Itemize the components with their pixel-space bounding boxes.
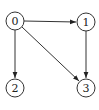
node-label: 2 (12, 82, 19, 95)
node-0: 0 (6, 12, 24, 30)
graph-canvas: 0 1 2 3 (0, 0, 99, 110)
node-1: 1 (77, 13, 95, 31)
node-label: 1 (83, 16, 90, 29)
edge-0-3 (22, 27, 79, 81)
node-label: 0 (12, 15, 19, 28)
node-label: 3 (83, 82, 90, 95)
node-3: 3 (77, 79, 95, 97)
edge-0-1 (24, 21, 76, 22)
node-2: 2 (6, 79, 24, 97)
